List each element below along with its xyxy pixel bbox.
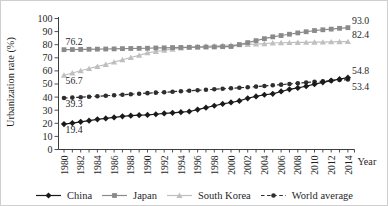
svg-text:1990: 1990 bbox=[142, 155, 153, 174]
world-average-circle-marker-icon bbox=[260, 190, 287, 201]
svg-text:1982: 1982 bbox=[75, 155, 86, 174]
svg-text:1998: 1998 bbox=[209, 155, 220, 174]
svg-text:1988: 1988 bbox=[125, 155, 136, 174]
svg-text:93.0: 93.0 bbox=[352, 15, 369, 26]
svg-text:100: 100 bbox=[38, 13, 53, 24]
legend-item-world-average: World average bbox=[260, 190, 353, 201]
svg-text:2014: 2014 bbox=[343, 155, 354, 174]
svg-text:53.4: 53.4 bbox=[352, 81, 369, 92]
svg-text:1980: 1980 bbox=[59, 155, 70, 174]
legend-item-south-korea: South Korea bbox=[166, 190, 251, 201]
svg-text:2004: 2004 bbox=[259, 155, 270, 174]
svg-text:30: 30 bbox=[43, 105, 53, 116]
svg-text:39.3: 39.3 bbox=[66, 98, 83, 109]
svg-text:1994: 1994 bbox=[176, 155, 187, 174]
china-diamond-marker-icon bbox=[35, 190, 62, 201]
svg-text:50: 50 bbox=[43, 78, 53, 89]
svg-text:56.7: 56.7 bbox=[66, 75, 83, 86]
legend-label-china: China bbox=[67, 190, 92, 201]
svg-text:2000: 2000 bbox=[226, 155, 237, 174]
svg-text:40: 40 bbox=[43, 92, 53, 103]
svg-text:2010: 2010 bbox=[309, 155, 320, 174]
svg-text:2008: 2008 bbox=[292, 155, 303, 174]
svg-text:Year: Year bbox=[358, 156, 377, 167]
svg-text:1992: 1992 bbox=[159, 155, 170, 174]
svg-text:90: 90 bbox=[43, 26, 53, 37]
svg-text:2012: 2012 bbox=[326, 155, 337, 174]
legend-label-japan: Japan bbox=[133, 190, 157, 201]
svg-text:1984: 1984 bbox=[92, 155, 103, 174]
legend-item-japan: Japan bbox=[101, 190, 157, 201]
legend-item-china: China bbox=[35, 190, 92, 201]
japan-square-marker-icon bbox=[101, 190, 128, 201]
urbanization-rate-chart: 0102030405060708090100198019821984198619… bbox=[0, 0, 388, 206]
svg-text:0: 0 bbox=[48, 144, 53, 155]
svg-text:80: 80 bbox=[43, 39, 53, 50]
svg-text:76.2: 76.2 bbox=[66, 36, 83, 47]
chart-canvas: 0102030405060708090100198019821984198619… bbox=[1, 1, 388, 179]
svg-text:70: 70 bbox=[43, 52, 53, 63]
svg-text:54.8: 54.8 bbox=[352, 65, 369, 76]
chart-legend: China Japan South Korea World average bbox=[1, 190, 387, 201]
svg-text:1996: 1996 bbox=[192, 155, 203, 174]
svg-text:82.4: 82.4 bbox=[352, 29, 369, 40]
legend-label-south-korea: South Korea bbox=[198, 190, 251, 201]
svg-text:19.4: 19.4 bbox=[66, 124, 83, 135]
svg-text:2002: 2002 bbox=[242, 155, 253, 174]
legend-label-world-average: World average bbox=[292, 190, 353, 201]
south-korea-triangle-marker-icon bbox=[166, 190, 193, 201]
svg-text:60: 60 bbox=[43, 65, 53, 76]
svg-text:Urbanization rate (%): Urbanization rate (%) bbox=[5, 37, 17, 127]
svg-text:10: 10 bbox=[43, 131, 53, 142]
svg-text:20: 20 bbox=[43, 118, 53, 129]
svg-text:1986: 1986 bbox=[109, 155, 120, 174]
svg-text:2006: 2006 bbox=[276, 155, 287, 174]
